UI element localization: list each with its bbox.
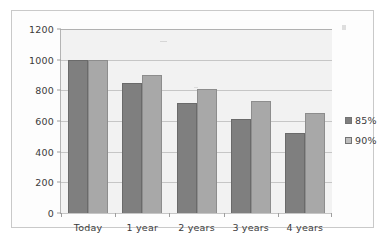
bar-85pct-4-years[interactable] <box>285 133 305 213</box>
x-axis-tick-mark <box>331 213 332 217</box>
y-axis-tick-label: 800 <box>35 85 54 96</box>
bar-90pct-2-years[interactable] <box>197 89 217 213</box>
plot-area: 020040060080010001200 Today1 year2 years… <box>60 29 332 214</box>
bar-group-2-years: 2 years <box>169 29 223 213</box>
x-axis-tick-label: 2 years <box>178 222 215 233</box>
bar-90pct-today[interactable] <box>88 60 108 213</box>
legend-item-90pct[interactable]: 90% <box>345 135 377 146</box>
bar-90pct-3-years[interactable] <box>251 101 271 213</box>
legend-label: 90% <box>355 135 377 146</box>
bar-group-3-years: 3 years <box>224 29 278 213</box>
bar-group-1-year: 1 year <box>115 29 169 213</box>
bar-85pct-today[interactable] <box>68 60 88 213</box>
bar-85pct-2-years[interactable] <box>177 103 197 213</box>
x-axis-tick-mark <box>115 213 116 217</box>
y-axis-tick-label: 200 <box>35 177 54 188</box>
legend-swatch-icon <box>345 137 352 144</box>
bar-group-today: Today <box>61 29 115 213</box>
y-axis-tick-label: 0 <box>48 208 54 219</box>
gridline <box>61 213 332 214</box>
bar-90pct-1-year[interactable] <box>142 75 162 213</box>
bar-85pct-1-year[interactable] <box>122 83 142 213</box>
scan-artifact <box>342 25 346 30</box>
x-axis-tick-mark <box>278 213 279 217</box>
x-axis-tick-mark <box>224 213 225 217</box>
bar-group-4-years: 4 years <box>278 29 332 213</box>
x-axis-tick-label: 3 years <box>232 222 269 233</box>
bar-90pct-4-years[interactable] <box>305 113 325 213</box>
y-axis-tick-label: 400 <box>35 146 54 157</box>
chart-legend: 85%90% <box>345 115 377 146</box>
legend-swatch-icon <box>345 117 352 124</box>
x-axis-tick-label: Today <box>74 222 102 233</box>
bars-layer: Today1 year2 years3 years4 years <box>61 29 332 213</box>
x-axis-tick-mark <box>61 213 62 217</box>
y-axis-tick-label: 1000 <box>29 54 54 65</box>
chart-frame: 020040060080010001200 Today1 year2 years… <box>11 10 374 228</box>
y-axis-tick-label: 1200 <box>29 24 54 35</box>
legend-item-85pct[interactable]: 85% <box>345 115 377 126</box>
bar-85pct-3-years[interactable] <box>231 119 251 213</box>
y-axis-tick-label: 600 <box>35 116 54 127</box>
x-axis-tick-mark <box>169 213 170 217</box>
x-axis-tick-label: 1 year <box>127 222 158 233</box>
x-axis-tick-label: 4 years <box>287 222 324 233</box>
legend-label: 85% <box>355 115 377 126</box>
